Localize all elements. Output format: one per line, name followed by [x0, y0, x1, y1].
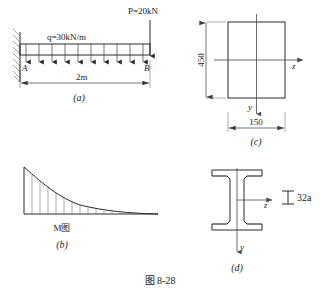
i-beam-size-label: 32a — [297, 192, 312, 203]
rect-width-label: 150 — [249, 117, 263, 127]
i-beam-axis-z-label: z — [263, 201, 268, 210]
panel-c-caption: (c) — [250, 136, 262, 148]
panel-b-caption: (b) — [56, 239, 68, 251]
rect-axis-y-label: y — [247, 102, 252, 112]
panel-a-group: q=30kN/m P=20kN A B 2m (a) — [13, 6, 159, 104]
moment-diagram-label: M图 — [53, 223, 70, 233]
figure-canvas: q=30kN/m P=20kN A B 2m (a) — [0, 0, 320, 296]
point-load-label: P=20kN — [128, 6, 159, 16]
rect-height-label: 450 — [196, 53, 206, 67]
i-beam-size-glyph — [282, 191, 294, 204]
node-label-a: A — [21, 63, 28, 73]
panel-a-caption: (a) — [73, 92, 85, 104]
span-label: 2m — [76, 72, 88, 82]
panel-d-group: z y 32a (d) — [212, 168, 312, 274]
beam-body — [20, 44, 150, 55]
moment-curve — [24, 167, 158, 214]
fixed-support-wall — [13, 29, 20, 82]
figure-caption: 图 8-28 — [145, 275, 176, 286]
distributed-load-arrows — [26, 44, 143, 62]
rect-axis-z-label: z — [291, 61, 296, 71]
distributed-load-label: q=30kN/m — [47, 32, 86, 42]
node-label-b: B — [144, 63, 150, 73]
panel-b-group: M图 (b) — [24, 167, 158, 251]
panel-c-group: z y 450 150 (c) — [196, 14, 303, 148]
panel-d-caption: (d) — [231, 262, 243, 274]
figure-container: q=30kN/m P=20kN A B 2m (a) — [0, 0, 320, 296]
i-beam-axis-y-label: y — [239, 242, 244, 252]
moment-hatch-lines — [32, 175, 128, 214]
